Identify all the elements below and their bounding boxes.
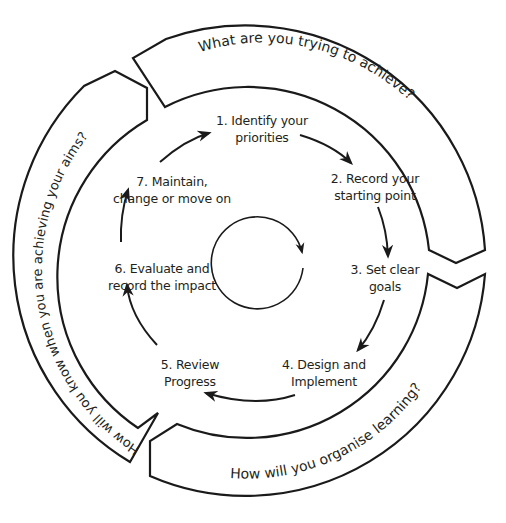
step-5-line2: Progress [161, 373, 220, 390]
step-4-line2: Implement [282, 373, 366, 390]
step-6-line2: record the impact [108, 277, 216, 294]
step-2-line2: starting point [331, 187, 419, 204]
step-1-line2: priorities [216, 129, 308, 146]
step-3-label: 3. Set clear goals [351, 261, 420, 295]
arrow-3-to-4 [358, 300, 384, 350]
step-7-line1: 7. Maintain, [113, 173, 231, 190]
step-4-label: 4. Design and Implement [282, 356, 366, 390]
step-1-label: 1. Identify your priorities [216, 112, 308, 146]
step-2-label: 2. Record your starting point [331, 170, 419, 204]
step-5-label: 5. Review Progress [161, 356, 220, 390]
clockwise-cycle-arrow-icon [211, 217, 303, 309]
step-1-line1: 1. Identify your [216, 112, 308, 129]
step-4-line1: 4. Design and [282, 356, 366, 373]
arrow-2-to-3 [378, 207, 388, 256]
step-3-line2: goals [351, 278, 420, 295]
step-6-line1: 6. Evaluate and [108, 260, 216, 277]
step-5-line1: 5. Review [161, 356, 220, 373]
arrow-7-to-1 [160, 133, 209, 162]
step-7-line2: change or move on [113, 190, 231, 207]
cycle-diagram: What are you trying to achieve? How will… [0, 0, 506, 523]
diagram-canvas: What are you trying to achieve? How will… [0, 0, 506, 523]
arrow-4-to-5 [206, 393, 295, 401]
arrow-5-to-6 [127, 285, 157, 345]
step-7-label: 7. Maintain, change or move on [113, 173, 231, 207]
step-2-line1: 2. Record your [331, 170, 419, 187]
step-6-label: 6. Evaluate and record the impact [108, 260, 216, 294]
step-3-line1: 3. Set clear [351, 261, 420, 278]
